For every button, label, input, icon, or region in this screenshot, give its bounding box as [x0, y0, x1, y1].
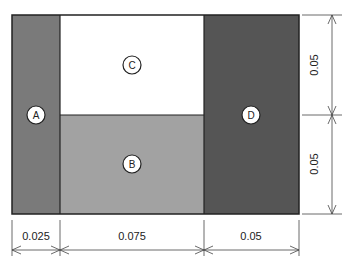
label-d: D — [247, 110, 254, 121]
vertical-dimensions — [302, 15, 342, 214]
label-c-marker: C — [123, 56, 141, 74]
label-a-marker: A — [27, 106, 45, 124]
dim-horizontal-d: 0.05 — [240, 230, 261, 242]
dim-horizontal-c-b: 0.075 — [118, 230, 146, 242]
label-a: A — [33, 110, 40, 121]
label-b-marker: B — [123, 155, 141, 173]
composite-wall-diagram: A C B D 0.05 0.05 0.025 — [0, 0, 351, 268]
label-b: B — [129, 159, 136, 170]
dim-vertical-bottom: 0.05 — [308, 153, 320, 174]
dim-horizontal-a: 0.025 — [22, 230, 50, 242]
label-d-marker: D — [242, 106, 260, 124]
dim-vertical-top: 0.05 — [308, 54, 320, 75]
label-c: C — [128, 60, 135, 71]
